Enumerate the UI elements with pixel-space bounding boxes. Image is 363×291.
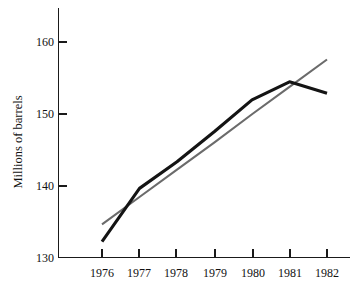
y-tick-label-130: 130: [36, 251, 54, 265]
x-tick-label-1979: 1979: [203, 266, 227, 280]
line-chart-figure: 160 150 140 130 1976 1977 1978 1979 1980…: [0, 0, 363, 291]
x-tick-label-1976: 1976: [90, 266, 114, 280]
x-tick-label-1977: 1977: [127, 266, 151, 280]
y-tick-label-140: 140: [36, 179, 54, 193]
x-tick-label-1980: 1980: [241, 266, 265, 280]
actual-production-series: [102, 82, 327, 242]
y-tick-label-150: 150: [36, 107, 54, 121]
x-tick-label-1981: 1981: [278, 266, 302, 280]
x-tick-label-1978: 1978: [164, 266, 188, 280]
y-tick-label-160: 160: [36, 35, 54, 49]
x-tick-label-1982: 1982: [315, 266, 339, 280]
chart-canvas: 160 150 140 130 1976 1977 1978 1979 1980…: [0, 0, 363, 291]
y-axis-title: Millions of barrels: [11, 95, 25, 188]
